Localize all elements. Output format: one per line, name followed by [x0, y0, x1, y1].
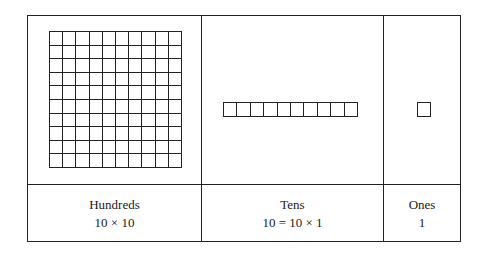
block-cell: [224, 103, 237, 117]
block-cell: [76, 59, 89, 73]
block-cell: [116, 46, 129, 60]
ones-label-cell: Ones 1: [384, 185, 460, 242]
block-cell: [63, 114, 76, 128]
block-cell: [278, 103, 291, 117]
block-cell: [169, 114, 182, 128]
block-cell: [129, 127, 142, 141]
block-cell: [63, 141, 76, 155]
block-cell: [116, 32, 129, 46]
block-cell: [291, 103, 304, 117]
block-cell: [50, 73, 63, 87]
block-cell: [50, 114, 63, 128]
block-cell: [90, 59, 103, 73]
block-cell: [50, 100, 63, 114]
block-cell: [103, 32, 116, 46]
block-cell: [76, 141, 89, 155]
hundreds-block-grid: [49, 31, 182, 168]
block-cell: [142, 154, 155, 168]
block-cell: [63, 127, 76, 141]
block-cell: [63, 32, 76, 46]
block-cell: [63, 86, 76, 100]
block-cell: [76, 154, 89, 168]
block-cell: [142, 46, 155, 60]
block-cell: [76, 46, 89, 60]
ones-label: Ones: [409, 196, 436, 214]
block-cell: [129, 114, 142, 128]
block-cell: [103, 154, 116, 168]
block-cell: [169, 100, 182, 114]
tens-block-rod: [223, 102, 358, 117]
block-cell: [156, 32, 169, 46]
block-cell: [156, 59, 169, 73]
block-cell: [116, 59, 129, 73]
block-cell: [90, 32, 103, 46]
block-cell: [50, 127, 63, 141]
block-cell: [76, 73, 89, 87]
block-cell: [76, 32, 89, 46]
block-cell: [129, 32, 142, 46]
block-cell: [103, 100, 116, 114]
block-cell: [50, 46, 63, 60]
block-cell: [90, 86, 103, 100]
block-cell: [90, 100, 103, 114]
block-cell: [116, 73, 129, 87]
block-cell: [103, 73, 116, 87]
block-cell: [169, 59, 182, 73]
block-cell: [90, 114, 103, 128]
ones-block-unit: [417, 102, 431, 117]
block-cell: [129, 59, 142, 73]
block-cell: [103, 46, 116, 60]
block-cell: [129, 46, 142, 60]
tens-label: Tens: [280, 196, 304, 214]
block-cell: [169, 32, 182, 46]
block-cell: [76, 127, 89, 141]
tens-formula: 10 = 10 × 1: [262, 214, 322, 232]
block-cell: [103, 114, 116, 128]
block-cell: [116, 100, 129, 114]
block-cell: [156, 46, 169, 60]
block-cell: [156, 73, 169, 87]
tens-label-cell: Tens 10 = 10 × 1: [202, 185, 383, 242]
block-cell: [103, 86, 116, 100]
block-cell: [76, 114, 89, 128]
block-cell: [169, 127, 182, 141]
block-cell: [142, 32, 155, 46]
block-cell: [251, 103, 264, 117]
block-cell: [103, 59, 116, 73]
block-cell: [169, 46, 182, 60]
block-cell: [63, 100, 76, 114]
block-cell: [50, 141, 63, 155]
block-cell: [116, 127, 129, 141]
block-cell: [169, 86, 182, 100]
block-cell: [331, 103, 344, 117]
block-cell: [304, 103, 317, 117]
block-cell: [116, 141, 129, 155]
block-cell: [169, 154, 182, 168]
block-cell: [116, 114, 129, 128]
block-cell: [142, 73, 155, 87]
block-cell: [129, 73, 142, 87]
block-cell: [129, 141, 142, 155]
block-cell: [76, 86, 89, 100]
hundreds-formula: 10 × 10: [95, 214, 135, 232]
block-cell: [156, 154, 169, 168]
block-cell: [237, 103, 250, 117]
block-cell: [264, 103, 277, 117]
hundreds-label: Hundreds: [89, 196, 140, 214]
block-cell: [63, 154, 76, 168]
block-cell: [345, 103, 358, 117]
block-cell: [142, 141, 155, 155]
block-cell: [50, 59, 63, 73]
block-cell: [156, 114, 169, 128]
block-cell: [169, 141, 182, 155]
block-cell: [142, 86, 155, 100]
block-cell: [142, 100, 155, 114]
block-cell: [156, 86, 169, 100]
block-cell: [50, 86, 63, 100]
block-cell: [156, 100, 169, 114]
block-cell: [90, 73, 103, 87]
block-cell: [142, 127, 155, 141]
block-cell: [90, 127, 103, 141]
block-cell: [63, 59, 76, 73]
block-cell: [63, 46, 76, 60]
